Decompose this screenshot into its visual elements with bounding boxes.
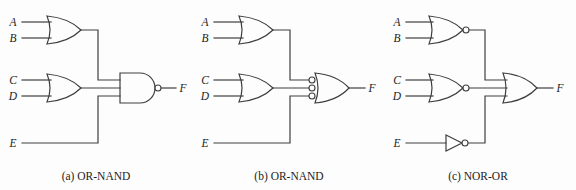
inversion-bubble (155, 85, 161, 91)
input-inversion-bubble (309, 85, 315, 91)
input-label-a: A (200, 16, 209, 28)
input-label-c: C (201, 74, 209, 86)
wire-or1-to-gate (273, 30, 309, 80)
output-label-f: F (178, 82, 187, 94)
inversion-bubble (463, 85, 469, 91)
or-gate-ab (239, 16, 273, 44)
logic-circuit-figure: A B C D E F (a) OR-NAND (0, 0, 576, 190)
nor-gate-cd (429, 74, 469, 102)
input-label-b: B (393, 32, 400, 44)
not-gate (446, 135, 468, 151)
input-label-c: C (9, 74, 17, 86)
input-label-d: D (392, 90, 402, 102)
input-label-e: E (8, 137, 16, 149)
input-label-d: D (8, 90, 18, 102)
wire-nor1-to-or (469, 30, 507, 80)
wire-not-to-or (468, 96, 507, 143)
output-label-f: F (555, 82, 564, 94)
nand-gate (120, 73, 161, 103)
nor-gate-ab (429, 16, 469, 44)
input-inversion-bubble (309, 77, 315, 83)
wire-or1-to-nand (81, 30, 120, 80)
panel-c: A B C D E F (c) NOR-OR (392, 16, 565, 183)
or-gate-cd (239, 74, 273, 102)
input-label-a: A (392, 16, 401, 28)
input-label-a: A (8, 16, 17, 28)
logic-diagrams-canvas: A B C D E F (a) OR-NAND (0, 0, 576, 190)
input-label-c: C (393, 74, 401, 86)
wire-input-e (22, 96, 120, 143)
or-gate-ab (47, 16, 81, 44)
input-label-e: E (392, 137, 400, 149)
negated-input-or-gate (309, 73, 349, 103)
output-label-f: F (367, 82, 376, 94)
input-label-d: D (200, 90, 210, 102)
input-inversion-bubble (309, 93, 315, 99)
inversion-bubble (463, 27, 469, 33)
input-label-b: B (9, 32, 16, 44)
inversion-bubble (462, 140, 468, 146)
input-label-b: B (201, 32, 208, 44)
or-gate-cd (47, 74, 81, 102)
wires (22, 22, 176, 143)
panel-caption-b: (b) OR-NAND (254, 170, 323, 183)
wire-input-e (214, 96, 309, 143)
panel-caption-a: (a) OR-NAND (62, 170, 131, 183)
input-label-e: E (200, 137, 208, 149)
or-gate-output (503, 73, 537, 103)
panel-b: A B C D E F (b) OR-NAND (200, 16, 377, 183)
panel-caption-c: (c) NOR-OR (448, 170, 508, 183)
panel-a: A B C D E F (a) OR-NAND (8, 16, 188, 183)
